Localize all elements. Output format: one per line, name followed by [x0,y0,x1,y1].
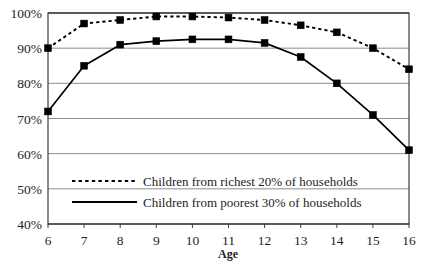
x-tick-13: 13 [294,233,308,248]
y-tick-80%: 80% [17,76,42,91]
x-axis-ticks [48,224,409,228]
x-tick-16: 16 [402,233,416,248]
x-tick-14: 14 [330,233,344,248]
data-point-marker [189,36,196,43]
y-tick-100%: 100% [11,6,43,21]
y-axis-tick-labels: 40%50%60%70%80%90%100% [11,6,43,232]
x-tick-9: 9 [153,233,160,248]
data-point-marker [153,38,160,45]
y-tick-70%: 70% [17,112,42,127]
series-line-poorest-30 [48,39,409,150]
data-point-marker [45,108,52,115]
data-point-marker [81,20,88,27]
data-point-marker [370,45,377,52]
chart-legend: Children from richest 20% of householdsC… [72,174,361,210]
data-point-marker [370,112,377,119]
y-tick-60%: 60% [17,147,42,162]
data-point-marker [189,13,196,20]
y-tick-50%: 50% [17,182,42,197]
data-point-marker [406,66,413,73]
x-tick-8: 8 [117,233,124,248]
gridlines [48,13,409,224]
y-tick-90%: 90% [17,41,42,56]
data-point-marker [153,13,160,20]
data-point-marker [45,45,52,52]
data-point-marker [333,80,340,87]
data-point-marker [225,36,232,43]
x-axis-tick-labels: 678910111213141516 [45,233,416,248]
x-tick-15: 15 [366,233,380,248]
data-point-marker [117,41,124,48]
data-point-marker [406,147,413,154]
data-point-marker [117,17,124,24]
x-tick-12: 12 [258,233,272,248]
x-tick-7: 7 [81,233,88,248]
x-axis-title: Age [218,247,239,261]
data-point-marker [81,62,88,69]
data-point-marker [261,17,268,24]
line-chart: 40%50%60%70%80%90%100% 67891011121314151… [0,0,426,265]
data-point-marker [261,39,268,46]
legend-label-richest-20: Children from richest 20% of households [143,174,358,189]
chart-container: 40%50%60%70%80%90%100% 67891011121314151… [0,0,426,265]
x-tick-10: 10 [186,233,200,248]
x-tick-6: 6 [45,233,52,248]
legend-label-poorest-30: Children from poorest 30% of households [143,195,361,210]
data-point-marker [297,22,304,29]
data-point-marker [297,54,304,61]
data-point-marker [225,14,232,21]
data-point-marker [333,29,340,36]
y-tick-40%: 40% [17,217,42,232]
x-tick-11: 11 [222,233,235,248]
